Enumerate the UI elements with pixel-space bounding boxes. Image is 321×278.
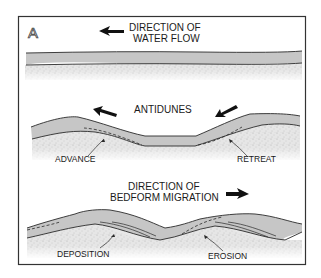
retreat-label: RETREAT	[237, 154, 276, 164]
antidunes-title: ANTIDUNES	[134, 104, 192, 115]
antidune-diagram: A DIRECTION OF WATER FLOW ANTIDUNES	[0, 0, 321, 278]
deposition-label: DEPOSITION	[57, 249, 109, 259]
erosion-label: EROSION	[208, 251, 247, 261]
panel-label: A	[28, 24, 38, 41]
water-flow-title-line1: DIRECTION OF	[129, 22, 201, 33]
migration-title-line1: DIRECTION OF	[128, 181, 200, 192]
migration-title-line2: BEDFORM MIGRATION	[110, 192, 219, 203]
advance-label: ADVANCE	[55, 154, 96, 164]
water-flow-title-line2: WATER FLOW	[133, 33, 200, 44]
